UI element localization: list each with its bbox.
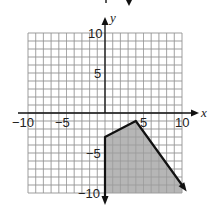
x-axis-arrow-icon bbox=[191, 110, 199, 117]
boundary-arrow-down-icon bbox=[102, 196, 109, 205]
y-axis-arrow-icon bbox=[102, 17, 109, 25]
y-tick-10: 10 bbox=[88, 26, 102, 41]
y-tick-m10: −10 bbox=[78, 186, 100, 201]
y-axis-label: y bbox=[108, 10, 116, 25]
x-tick-5: 5 bbox=[140, 115, 147, 130]
coordinate-plane: x y −10 −5 5 10 10 5 −5 −10 bbox=[0, 0, 215, 214]
x-tick-m5: −5 bbox=[55, 115, 70, 130]
x-axis-label: x bbox=[200, 105, 207, 120]
y-tick-5: 5 bbox=[94, 66, 101, 81]
x-tick-m10: −10 bbox=[12, 115, 34, 130]
top-stray-arrow bbox=[126, 0, 132, 6]
y-tick-m5: −5 bbox=[86, 146, 101, 161]
x-tick-10: 10 bbox=[175, 115, 189, 130]
